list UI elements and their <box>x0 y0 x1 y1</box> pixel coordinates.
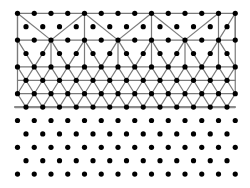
diagonal-edge <box>185 13 219 40</box>
lattice-node <box>82 38 87 43</box>
lattice-node <box>208 51 213 56</box>
lattice-node <box>99 64 104 69</box>
lattice-node <box>233 38 238 43</box>
lattice-node <box>90 78 95 83</box>
lattice-node <box>15 172 20 177</box>
lattice-node <box>191 105 196 110</box>
lattice-node <box>15 118 20 123</box>
lattice-node <box>32 118 37 123</box>
diagonal-edge <box>85 13 119 40</box>
lattice-node <box>224 158 229 163</box>
lattice-node <box>90 158 95 163</box>
lattice-node <box>141 131 146 136</box>
lattice-node <box>124 24 129 29</box>
lattice-node <box>15 38 20 43</box>
lattice-node <box>115 64 120 69</box>
lattice-node <box>57 158 62 163</box>
lattice-node <box>224 105 229 110</box>
lattice-node <box>65 38 70 43</box>
lattice-node <box>233 64 238 69</box>
lattice-node <box>166 91 171 96</box>
lattice-node <box>74 105 79 110</box>
lattice-node <box>48 145 53 150</box>
lattice-node <box>157 158 162 163</box>
lattice-node <box>124 78 129 83</box>
lattice-node <box>57 105 62 110</box>
lattice-node <box>74 24 79 29</box>
lattice-node <box>48 118 53 123</box>
lattice-node <box>40 78 45 83</box>
lattice-node <box>199 118 204 123</box>
diagonal-edge <box>118 13 152 40</box>
lattice-node <box>23 158 28 163</box>
lattice-node <box>99 91 104 96</box>
lattice-node <box>141 105 146 110</box>
lattice-node <box>115 11 120 16</box>
lattice-node <box>208 105 213 110</box>
lattice-node <box>224 24 229 29</box>
lattice-node <box>224 51 229 56</box>
lattice-node <box>166 172 171 177</box>
lattice-node <box>132 118 137 123</box>
diagonal-edge <box>152 13 186 40</box>
lattice-node <box>74 131 79 136</box>
lattice-node <box>40 158 45 163</box>
lattice-node <box>74 158 79 163</box>
lattice-node <box>141 51 146 56</box>
lattice-node <box>132 38 137 43</box>
lattice-node <box>23 131 28 136</box>
lattice-node <box>216 91 221 96</box>
refined-lattice-diagram <box>0 0 250 188</box>
lattice-node <box>141 78 146 83</box>
lattice-node <box>157 78 162 83</box>
lattice-node <box>65 91 70 96</box>
lattice-node <box>166 38 171 43</box>
lattice-node <box>233 172 238 177</box>
lattice-node <box>132 11 137 16</box>
lattice-node <box>32 172 37 177</box>
lattice-node <box>74 78 79 83</box>
lattice-node <box>132 145 137 150</box>
lattice-node <box>15 145 20 150</box>
lattice-node <box>40 24 45 29</box>
lattice-node <box>107 51 112 56</box>
lattice-node <box>82 145 87 150</box>
lattice-node <box>224 78 229 83</box>
lattice-node <box>216 11 221 16</box>
lattice-node <box>182 91 187 96</box>
lattice-node <box>132 91 137 96</box>
lattice-node <box>182 118 187 123</box>
lattice-node <box>182 64 187 69</box>
lattice-node <box>107 78 112 83</box>
lattice-node <box>149 172 154 177</box>
lattice-node <box>124 105 129 110</box>
lattice-node <box>132 172 137 177</box>
lattice-node <box>23 105 28 110</box>
lattice-node <box>107 131 112 136</box>
lattice-node <box>23 24 28 29</box>
lattice-node <box>90 51 95 56</box>
lattice-node <box>199 64 204 69</box>
lattice-node <box>23 78 28 83</box>
lattice-node <box>182 38 187 43</box>
lattice-node <box>208 131 213 136</box>
lattice-node <box>157 51 162 56</box>
lattice-node <box>233 145 238 150</box>
lattice-node <box>48 11 53 16</box>
lattice-node <box>208 158 213 163</box>
lattice-node <box>32 38 37 43</box>
lattice-node <box>166 145 171 150</box>
lattice-node <box>82 64 87 69</box>
lattice-node <box>174 131 179 136</box>
lattice-node <box>216 118 221 123</box>
lattice-node <box>208 78 213 83</box>
lattice-node <box>107 105 112 110</box>
lattice-node <box>107 158 112 163</box>
lattice-node <box>57 51 62 56</box>
lattice-node <box>48 38 53 43</box>
lattice-node <box>174 105 179 110</box>
lattice-node <box>57 131 62 136</box>
lattice-node <box>191 131 196 136</box>
lattice-node <box>174 51 179 56</box>
lattice-node <box>208 24 213 29</box>
